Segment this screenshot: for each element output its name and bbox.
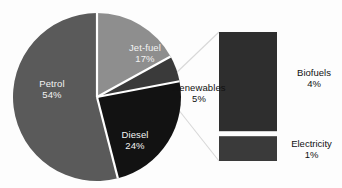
bar-label-electricity-value: 1% bbox=[281, 150, 342, 161]
pie-label-jetfuel-value: 17% bbox=[116, 54, 174, 65]
pie-label-petrol: Petrol 54% bbox=[22, 79, 82, 100]
pie-label-jetfuel: Jet-fuel 17% bbox=[116, 43, 174, 64]
bar-segment-biofuels[interactable] bbox=[219, 32, 277, 131]
bar-segment-electricity[interactable] bbox=[219, 136, 277, 161]
pie-label-diesel-value: 24% bbox=[106, 141, 164, 152]
bar-label-biofuels-value: 4% bbox=[286, 79, 342, 90]
pie-label-petrol-value: 54% bbox=[22, 90, 82, 101]
pie-label-renewables-value: 5% bbox=[160, 94, 238, 105]
pie-label-renewables: Renewables 5% bbox=[160, 83, 238, 104]
fuel-mix-chart-figure: Petrol 54% Jet-fuel 17% Diesel 24% Renew… bbox=[0, 0, 342, 188]
pie-label-diesel: Diesel 24% bbox=[106, 130, 164, 151]
bar-label-electricity: Electricity 1% bbox=[281, 139, 342, 161]
bar-label-biofuels: Biofuels 4% bbox=[286, 68, 342, 90]
